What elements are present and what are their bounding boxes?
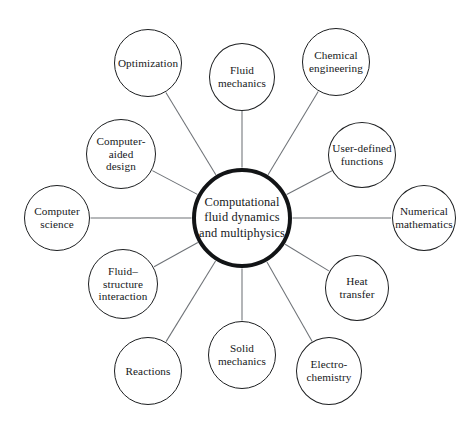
node-computer-science[interactable]: Computerscience — [24, 185, 90, 251]
node-fluid-mechanics[interactable]: Fluidmechanics — [209, 43, 275, 111]
diagram-canvas: OptimizationFluidmechanicsChemicalengine… — [0, 0, 475, 426]
node-label-computer-science: Computerscience — [31, 205, 83, 231]
node-optimization[interactable]: Optimization — [114, 29, 182, 97]
node-label-fluid-mechanics: Fluidmechanics — [215, 64, 269, 90]
node-heat-transfer[interactable]: Heattransfer — [325, 255, 389, 321]
node-label-electro-chemistry: Electro-chemistry — [303, 358, 354, 384]
spoke-reactions — [166, 261, 216, 342]
node-label-numerical-mathematics: Numericalmathematics — [392, 205, 456, 231]
node-label-reactions: Reactions — [122, 365, 173, 378]
node-numerical-mathematics[interactable]: Numericalmathematics — [392, 185, 456, 251]
node-label-hub: Computationalfluid dynamicsand multiphys… — [196, 195, 288, 242]
spoke-fluid-structure-interaction — [154, 242, 198, 266]
node-label-chemical-engineering: Chemicalengineering — [306, 49, 366, 75]
node-label-heat-transfer: Heattransfer — [337, 275, 378, 301]
node-hub-computational-fluid-dynamics[interactable]: Computationalfluid dynamicsand multiphys… — [192, 168, 292, 268]
node-label-fluid-structure-interaction: Fluid–structureinteraction — [96, 265, 151, 304]
node-label-user-defined-functions: User-definedfunctions — [329, 142, 394, 168]
spoke-optimization — [166, 92, 216, 174]
node-user-defined-functions[interactable]: User-definedfunctions — [328, 122, 396, 188]
node-label-optimization: Optimization — [115, 57, 181, 70]
spoke-chemical-engineering — [268, 92, 318, 175]
node-fluid-structure-interaction[interactable]: Fluid–structureinteraction — [88, 249, 158, 319]
node-label-computer-aided-design: Computer-aideddesign — [93, 135, 148, 174]
node-electro-chemistry[interactable]: Electro-chemistry — [296, 337, 362, 405]
node-reactions[interactable]: Reactions — [114, 337, 182, 405]
node-label-solid-mechanics: Solidmechanics — [215, 342, 269, 368]
node-chemical-engineering[interactable]: Chemicalengineering — [302, 28, 370, 96]
spoke-computer-aided-design — [152, 171, 197, 195]
node-solid-mechanics[interactable]: Solidmechanics — [208, 321, 276, 389]
spoke-electro-chemistry — [267, 262, 312, 342]
spoke-user-defined-functions — [287, 171, 332, 195]
node-computer-aided-design[interactable]: Computer-aideddesign — [86, 119, 156, 189]
spoke-heat-transfer — [285, 244, 329, 271]
